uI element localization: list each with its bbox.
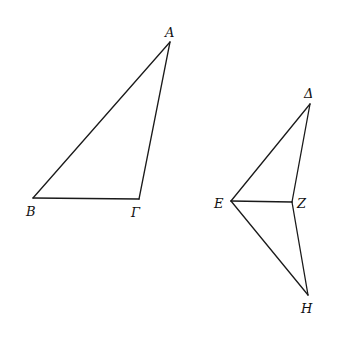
edge-ab <box>33 42 170 198</box>
label-b: B <box>25 204 36 219</box>
edge-bg <box>33 198 139 199</box>
edge-eh <box>231 201 308 295</box>
edge-de <box>231 104 310 201</box>
label-a: A <box>164 25 174 40</box>
label-h: H <box>300 301 313 316</box>
edge-dz <box>292 104 310 202</box>
geometry-diagram: A B Γ Δ E Z H <box>0 0 340 347</box>
edge-ez <box>231 201 292 202</box>
label-e: E <box>213 196 224 211</box>
edge-ag <box>139 42 170 199</box>
label-delta: Δ <box>303 86 313 101</box>
figure-dezh: Δ E Z H <box>213 86 313 316</box>
label-z: Z <box>296 196 307 211</box>
diagram-svg: A B Γ Δ E Z H <box>0 0 340 347</box>
edge-zh <box>292 202 308 295</box>
label-gamma: Γ <box>130 205 141 220</box>
triangle-abg: A B Γ <box>25 25 174 220</box>
